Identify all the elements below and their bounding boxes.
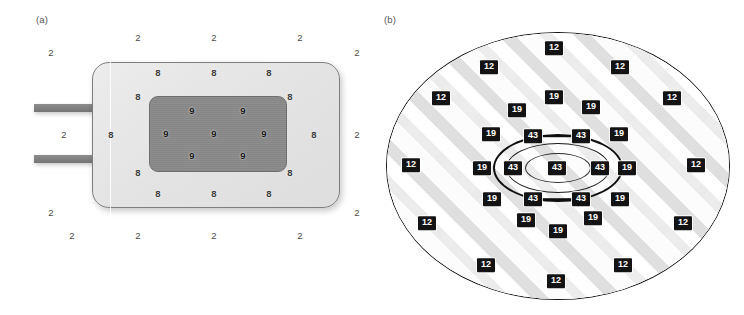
label-value-8-0: 8 bbox=[155, 68, 160, 78]
label-value-43-2: 43 bbox=[504, 161, 522, 175]
label-value-8-4: 8 bbox=[287, 92, 292, 102]
label-value-8-2: 8 bbox=[266, 68, 271, 78]
label-value-2-0: 2 bbox=[48, 48, 53, 58]
label-value-12-1: 12 bbox=[480, 60, 498, 74]
label-value-19-6: 19 bbox=[618, 161, 636, 175]
label-value-19-1: 19 bbox=[508, 103, 526, 117]
panel-b-label: (b) bbox=[384, 14, 396, 25]
label-value-43-0: 43 bbox=[524, 129, 542, 143]
label-value-2-12: 2 bbox=[297, 231, 302, 241]
label-value-12-11: 12 bbox=[547, 274, 565, 288]
label-value-19-11: 19 bbox=[549, 224, 567, 238]
label-value-9-1: 9 bbox=[240, 106, 245, 116]
label-value-2-11: 2 bbox=[211, 231, 216, 241]
label-value-2-4: 2 bbox=[354, 48, 359, 58]
label-value-19-5: 19 bbox=[473, 161, 491, 175]
label-value-19-7: 19 bbox=[483, 192, 501, 206]
label-value-9-6: 9 bbox=[240, 151, 245, 161]
ring-connector-0 bbox=[541, 135, 573, 137]
label-value-12-3: 12 bbox=[432, 91, 450, 105]
label-value-19-4: 19 bbox=[610, 127, 628, 141]
label-value-19-3: 19 bbox=[482, 127, 500, 141]
label-value-2-1: 2 bbox=[135, 33, 140, 43]
label-value-8-5: 8 bbox=[108, 130, 113, 140]
label-value-19-0: 19 bbox=[545, 90, 563, 104]
label-value-19-9: 19 bbox=[517, 213, 535, 227]
label-value-12-6: 12 bbox=[687, 158, 705, 172]
ring-connector-1 bbox=[541, 198, 573, 200]
label-value-12-9: 12 bbox=[477, 258, 495, 272]
label-value-8-9: 8 bbox=[155, 189, 160, 199]
label-value-12-8: 12 bbox=[674, 216, 692, 230]
label-value-8-8: 8 bbox=[287, 168, 292, 178]
label-value-43-5: 43 bbox=[524, 192, 542, 206]
label-value-8-1: 8 bbox=[211, 68, 216, 78]
label-value-12-5: 12 bbox=[402, 158, 420, 172]
panel-a: (a) 2222222222222 888888888888 9999999 bbox=[0, 0, 372, 315]
panel-a-label: (a) bbox=[36, 14, 48, 25]
label-value-2-5: 2 bbox=[61, 130, 66, 140]
label-value-9-0: 9 bbox=[189, 106, 194, 116]
label-value-43-1: 43 bbox=[572, 129, 590, 143]
label-value-19-10: 19 bbox=[584, 211, 602, 225]
label-value-43-6: 43 bbox=[572, 192, 590, 206]
label-value-9-2: 9 bbox=[163, 129, 168, 139]
label-value-9-5: 9 bbox=[189, 151, 194, 161]
label-value-12-0: 12 bbox=[545, 41, 563, 55]
panel-b: (b) 121212121212121212121212 19191919191… bbox=[372, 0, 744, 315]
label-value-2-10: 2 bbox=[135, 231, 140, 241]
label-value-2-8: 2 bbox=[354, 208, 359, 218]
label-value-12-7: 12 bbox=[418, 216, 436, 230]
label-value-8-7: 8 bbox=[135, 168, 140, 178]
label-value-2-2: 2 bbox=[211, 33, 216, 43]
label-value-8-3: 8 bbox=[135, 92, 140, 102]
label-value-43-3: 43 bbox=[548, 161, 566, 175]
label-value-2-9: 2 bbox=[69, 231, 74, 241]
label-value-2-3: 2 bbox=[297, 33, 302, 43]
label-value-12-4: 12 bbox=[663, 91, 681, 105]
label-value-19-2: 19 bbox=[582, 100, 600, 114]
label-value-8-10: 8 bbox=[211, 189, 216, 199]
label-value-12-10: 12 bbox=[614, 258, 632, 272]
label-value-12-2: 12 bbox=[611, 60, 629, 74]
label-value-8-6: 8 bbox=[311, 130, 316, 140]
label-value-8-11: 8 bbox=[266, 189, 271, 199]
label-value-9-3: 9 bbox=[211, 129, 216, 139]
label-value-19-8: 19 bbox=[611, 192, 629, 206]
label-value-2-7: 2 bbox=[48, 208, 53, 218]
label-value-2-6: 2 bbox=[354, 130, 359, 140]
label-value-9-4: 9 bbox=[261, 129, 266, 139]
label-value-43-4: 43 bbox=[591, 161, 609, 175]
figure-container: (a) 2222222222222 888888888888 9999999 (… bbox=[0, 0, 744, 315]
